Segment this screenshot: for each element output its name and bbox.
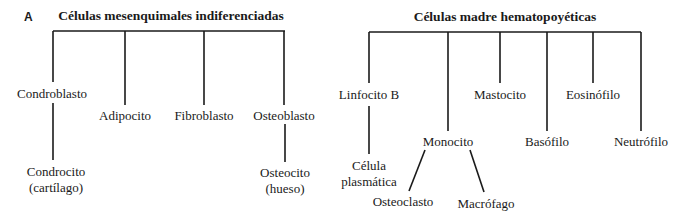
- node-neutrofilo: Neutrófilo: [614, 134, 668, 149]
- node-condrocito: Condrocito: [27, 164, 86, 179]
- node-celula-plasmatica-2: plasmática: [341, 174, 397, 189]
- node-eosinofilo: Eosinófilo: [566, 87, 620, 102]
- node-fibroblasto: Fibroblasto: [174, 108, 233, 123]
- node-osteocito-note: (hueso): [266, 181, 305, 196]
- node-condroblasto: Condroblasto: [17, 86, 87, 101]
- node-osteoblasto: Osteoblasto: [253, 108, 314, 123]
- node-monocito: Monocito: [423, 134, 474, 149]
- node-macrofago: Macrófago: [457, 196, 514, 211]
- node-adipocito: Adipocito: [99, 108, 151, 123]
- panel-label: A: [24, 10, 33, 24]
- node-osteoclasto: Osteoclasto: [373, 194, 434, 209]
- left-root-title: Células mesenquimales indiferenciadas: [58, 8, 284, 23]
- right-root-title: Células madre hematopoyéticas: [414, 9, 597, 24]
- node-mastocito: Mastocito: [474, 87, 526, 102]
- node-osteocito: Osteocito: [260, 165, 310, 180]
- cell-lineage-diagram: A Células mesenquimales indiferenciadas …: [0, 0, 679, 218]
- node-basofilo: Basófilo: [525, 134, 569, 149]
- node-celula-plasmatica-1: Célula: [352, 158, 386, 173]
- node-condrocito-note: (cartílago): [29, 180, 83, 195]
- node-linfocito-b: Linfocito B: [339, 87, 399, 102]
